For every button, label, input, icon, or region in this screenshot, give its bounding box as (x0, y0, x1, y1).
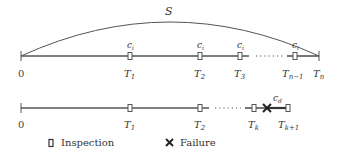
cost-label: ci (197, 40, 204, 51)
time-label: Tk+1 (278, 119, 299, 132)
inspection-box-icon (198, 53, 202, 60)
inspection-box-icon (286, 105, 290, 112)
top-timeline (21, 22, 319, 61)
time-label: Tn−1 (282, 68, 304, 81)
cost-label: ci (292, 40, 299, 51)
time-label: T1 (124, 119, 135, 132)
legend-inspection-label: Inspection (61, 137, 115, 148)
cost-label: ci (127, 40, 134, 51)
end-time-label: Tn (313, 68, 325, 81)
time-label: Tk (248, 119, 259, 132)
failure-cost-label: cd (273, 93, 282, 104)
origin-label: 0 (18, 68, 24, 79)
inspection-box-icon (128, 105, 132, 112)
time-label: T1 (124, 68, 135, 81)
inspection-box-icon (252, 105, 256, 112)
time-label: T2 (194, 68, 206, 81)
legend: Inspection Failure (49, 137, 216, 148)
inspection-box-icon (293, 53, 297, 60)
inspection-box-icon (49, 140, 53, 147)
legend-failure-label: Failure (180, 137, 216, 148)
arc-label: S (165, 5, 173, 18)
inspection-box-icon (198, 105, 202, 112)
time-label: T3 (234, 68, 246, 81)
inspection-box-icon (128, 53, 132, 60)
inspection-box-icon (238, 53, 242, 60)
bottom-timeline (21, 103, 290, 113)
origin-label: 0 (18, 119, 24, 130)
arc-s (21, 22, 319, 56)
failure-cross-icon (166, 139, 173, 146)
time-label: T2 (194, 119, 206, 132)
cost-label: ci (237, 40, 244, 51)
inspection-timeline-diagram: S ci ci ci ci 0 T1 T2 T3 Tn−1 Tn cd 0 T1… (0, 0, 340, 159)
